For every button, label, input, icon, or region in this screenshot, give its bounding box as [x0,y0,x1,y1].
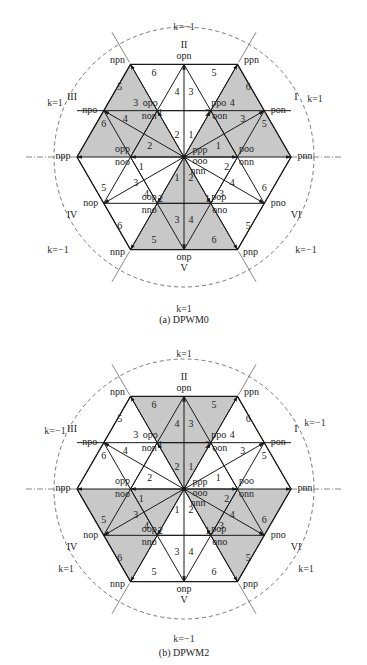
region-number: 4 [123,113,128,124]
vector-label-non: non [142,110,157,121]
vector-label-ono: ono [212,536,227,547]
vector-label-npn: npn [110,386,125,397]
vector-label-poo: poo [239,143,254,154]
vector-label-pnn: pnn [298,482,313,493]
region-number: 1 [139,493,144,504]
region-number: 1 [139,161,144,172]
vector-label-nno: nno [142,536,157,547]
region-number: 4 [189,214,194,225]
vector-label-ppo: ppo [211,97,226,108]
vector-label-opp: opp [115,475,130,486]
sector-label-IV: IV [67,541,78,552]
region-number: 1 [216,472,221,483]
region-number: 3 [133,509,138,520]
shaded-region [77,111,184,157]
region-number: 4 [230,97,235,108]
region-number: 3 [240,445,245,456]
region-number: 2 [205,439,210,450]
vector-label-opo: opo [143,97,158,108]
k-label: k=1 [58,563,74,574]
region-number: 5 [101,182,106,193]
region-number: 3 [175,546,180,557]
sector-label-VI: VI [291,541,302,552]
vector-label-onn: onn [239,488,254,499]
region-number: 6 [117,220,122,231]
vector-label-opo: opo [143,429,158,440]
space-vector-diagrams: pnnppnopnnpnnponppnopnnponppnppnoponppoo… [0,0,367,665]
sector-label-II: II [181,39,188,50]
region-number: 4 [175,86,180,97]
region-number: 1 [158,107,163,118]
region-number: 2 [158,525,163,536]
region-number: 4 [189,546,194,557]
vector-label-ppo: ppo [211,429,226,440]
vector-label-npn: npn [110,54,125,65]
region-number: 1 [175,504,180,515]
region-number: 1 [189,129,194,140]
region-number: 2 [175,129,180,140]
region-number: 4 [230,509,235,520]
region-number: 2 [224,493,229,504]
region-number: 4 [144,520,149,531]
vector-label-npo: npo [82,104,97,115]
vector-label-nnp: nnp [110,578,125,589]
k-label: k=1 [176,303,192,314]
region-number: 2 [205,107,210,118]
k-label: k=−1 [304,417,325,428]
region-number: 2 [158,193,163,204]
vector-label-onp: onp [177,251,192,262]
region-number: 3 [189,418,194,429]
vector-label-pnp: pnp [243,246,258,257]
k-label: k=−1 [295,244,316,255]
vector-label-npo: npo [82,436,97,447]
region-number: 6 [152,399,157,410]
vector-label-ono: ono [212,204,227,215]
vector-label-opn: opn [177,382,192,393]
region-number: 6 [262,514,267,525]
vector-label-opn: opn [177,50,192,61]
region-number: 5 [246,552,251,563]
vector-label-pon: pon [271,104,286,115]
region-number: 6 [101,118,106,129]
region-number: 3 [133,177,138,188]
vector-label-non: non [142,442,157,453]
vector-label-oon: oon [212,110,227,121]
sector-label-V: V [180,594,188,605]
k-label: k=−1 [44,425,65,436]
k-label: k=1 [176,348,192,359]
vector-label-opp: opp [115,143,130,154]
region-number: 1 [205,193,210,204]
region-number: 5 [211,67,216,78]
k-label: k=1 [47,97,63,108]
region-number: 6 [152,67,157,78]
region-number: 5 [262,450,267,461]
region-number: 4 [144,188,149,199]
vector-label-nop: nop [83,197,98,208]
vector-label-pon: pon [271,436,286,447]
k-label: k=−1 [173,21,194,32]
origin-dot [182,487,186,491]
region-number: 3 [240,113,245,124]
region-number: 3 [175,214,180,225]
region-number: 5 [101,514,106,525]
region-number: 6 [211,234,216,245]
region-number: 2 [189,504,194,515]
region-number: 5 [152,234,157,245]
region-number: 4 [175,418,180,429]
vector-label-npp: npp [56,150,71,161]
sector-label-V: V [180,262,188,273]
region-number: 6 [211,566,216,577]
sector-label-VI: VI [291,209,302,220]
k-label: k=−1 [47,244,68,255]
region-number: 4 [230,429,235,440]
region-number: 4 [230,177,235,188]
region-number: 2 [224,161,229,172]
sector-label-III: III [67,91,77,102]
region-number: 3 [219,520,224,531]
vector-label-onn: onn [239,156,254,167]
region-number: 1 [158,439,163,450]
region-number: 5 [262,118,267,129]
vector-label-ppn: ppn [244,54,259,65]
region-number: 1 [216,140,221,151]
vector-label-pno: pno [271,197,286,208]
